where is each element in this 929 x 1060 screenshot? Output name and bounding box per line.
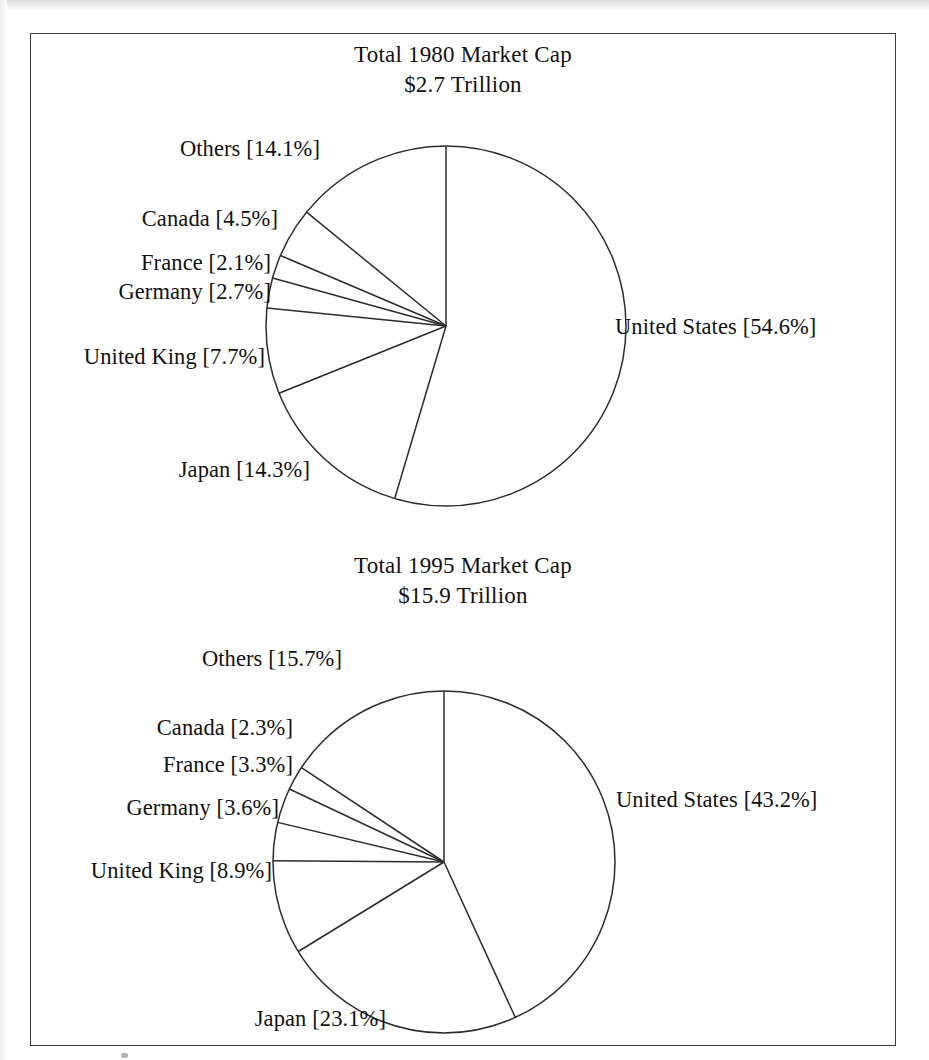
chart-1980-label-germany: Germany [2.7%] xyxy=(118,279,271,305)
pie-slice-divider-canada xyxy=(280,256,446,326)
chart-1995-label-france: France [3.3%] xyxy=(163,752,293,778)
pie-slice-divider-others xyxy=(301,768,444,862)
chart-1995-label-canada: Canada [2.3%] xyxy=(157,715,293,741)
chart-1995-label-germany: Germany [3.6%] xyxy=(126,795,279,821)
chart-1980-label-france: France [2.1%] xyxy=(141,250,271,276)
pie-slice-divider-japan xyxy=(395,326,446,499)
figure-page: Total 1980 Market Cap $2.7 Trillion Unit… xyxy=(0,0,929,1060)
chart-1995-label-united-states: United States [43.2%] xyxy=(616,787,817,813)
pie-slice-divider-germany xyxy=(267,308,446,326)
chart-1980-label-united-kingdom: United King [7.7%] xyxy=(84,344,265,370)
pie-slice-divider-france xyxy=(273,278,446,326)
scan-artifact-speck xyxy=(121,1053,128,1058)
pie-slice-divider-others xyxy=(307,212,446,326)
pie-slice-divider-united-king xyxy=(298,862,444,951)
chart-1980-label-japan: Japan [14.3%] xyxy=(179,457,310,483)
chart-1980-label-united-states: United States [54.6%] xyxy=(615,314,816,340)
pie-slice-divider-japan xyxy=(444,862,515,1017)
pie-slice-divider-canada xyxy=(289,789,444,862)
chart-1980-label-others: Others [14.1%] xyxy=(180,136,320,162)
scan-artifact-left-band xyxy=(0,0,7,1060)
chart-1980-label-canada: Canada [4.5%] xyxy=(142,206,278,232)
chart-1995-label-japan: Japan [23.1%] xyxy=(255,1006,386,1032)
chart-1995-label-united-kingdom: United King [8.9%] xyxy=(91,858,272,884)
chart-1995-label-others: Others [15.7%] xyxy=(202,646,342,672)
pie-slice-divider-germany xyxy=(273,861,444,862)
scan-artifact-top-band xyxy=(0,0,929,9)
pie-slice-divider-france xyxy=(278,822,444,862)
pie-slice-divider-united-king xyxy=(279,326,446,393)
figure-border-frame: Total 1980 Market Cap $2.7 Trillion Unit… xyxy=(30,33,896,1046)
